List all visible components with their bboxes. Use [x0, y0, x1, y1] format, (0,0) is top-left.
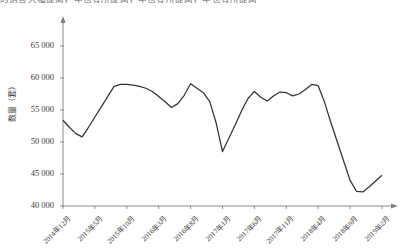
x-axis-tick-labels: 2014年12月2015年5月2015年10月2016年3月2016年8月201…: [0, 0, 406, 252]
x-tick-label: 2014年12月: [0, 213, 73, 252]
line-chart-figure: 的销售大幅提高，年也有所提高，年也有所提高，年也有所提高 数量（套） 40 00…: [0, 0, 406, 252]
